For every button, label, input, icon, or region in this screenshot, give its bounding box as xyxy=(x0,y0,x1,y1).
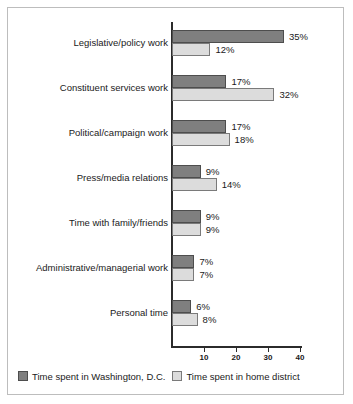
legend-swatch-icon-washington xyxy=(18,371,28,381)
category-label: Press/media relations xyxy=(77,172,168,183)
legend-swatch-icon-home-district xyxy=(172,371,182,381)
bar-value-label: 18% xyxy=(235,133,254,146)
x-axis-tick-label: 10 xyxy=(200,353,209,362)
chart-plot-area: Legislative/policy workConstituent servi… xyxy=(8,8,343,394)
bar-washington xyxy=(172,255,194,268)
bar-washington xyxy=(172,210,201,223)
bar-washington xyxy=(172,165,201,178)
bar-value-label: 8% xyxy=(203,313,217,326)
bar-value-label: 9% xyxy=(206,210,220,223)
x-axis-tick xyxy=(204,347,205,352)
bar-home-district xyxy=(172,88,274,101)
bar-washington xyxy=(172,300,191,313)
bar-value-label: 17% xyxy=(231,75,250,88)
bar-value-label: 35% xyxy=(289,30,308,43)
x-axis-tick xyxy=(300,347,301,352)
category-label: Time with family/friends xyxy=(69,217,168,228)
bar-value-label: 6% xyxy=(196,300,210,313)
bar-value-label: 17% xyxy=(231,120,250,133)
bar-home-district xyxy=(172,43,210,56)
bar-home-district xyxy=(172,313,198,326)
bar-value-label: 14% xyxy=(222,178,241,191)
category-label: Political/campaign work xyxy=(69,127,168,138)
bar-home-district xyxy=(172,178,217,191)
legend-item-home-district[interactable]: Time spent in home district xyxy=(172,371,299,382)
bar-home-district xyxy=(172,268,194,281)
legend-label-washington: Time spent in Washington, D.C. xyxy=(32,371,165,382)
bar-washington xyxy=(172,75,226,88)
bar-value-label: 7% xyxy=(199,255,213,268)
x-axis-tick-label: 30 xyxy=(264,353,273,362)
chart-frame: Legislative/policy workConstituent servi… xyxy=(7,7,344,395)
category-label: Legislative/policy work xyxy=(73,37,168,48)
bar-value-label: 7% xyxy=(199,268,213,281)
x-axis-tick xyxy=(268,347,269,352)
category-label: Administrative/managerial work xyxy=(36,262,168,273)
legend-item-washington[interactable]: Time spent in Washington, D.C. xyxy=(18,371,165,382)
legend-label-home-district: Time spent in home district xyxy=(186,371,299,382)
chart-legend: Time spent in Washington, D.C. Time spen… xyxy=(18,367,333,385)
category-label: Personal time xyxy=(110,307,168,318)
bar-home-district xyxy=(172,133,230,146)
bar-value-label: 32% xyxy=(279,88,298,101)
bar-home-district xyxy=(172,223,201,236)
bar-value-label: 12% xyxy=(215,43,234,56)
x-axis-tick-label: 20 xyxy=(232,353,241,362)
category-label: Constituent services work xyxy=(60,82,168,93)
bar-washington xyxy=(172,30,284,43)
bar-value-label: 9% xyxy=(206,223,220,236)
bar-value-label: 9% xyxy=(206,165,220,178)
x-axis-tick xyxy=(236,347,237,352)
x-axis-tick-label: 40 xyxy=(296,353,305,362)
bar-washington xyxy=(172,120,226,133)
